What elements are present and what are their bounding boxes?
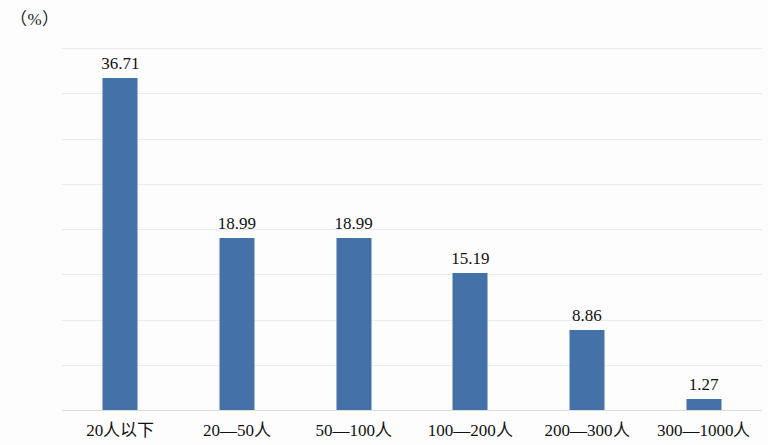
bar-value-label: 18.99 (218, 214, 256, 234)
bar-slot: 1.27 (645, 48, 762, 410)
plot-area: 40.0035.0030.0025.0020.0015.0010.005.000… (62, 48, 762, 410)
bar-slot: 8.86 (529, 48, 646, 410)
bar[interactable] (569, 330, 604, 410)
bar-value-label: 1.27 (689, 375, 719, 395)
bar-value-label: 36.71 (101, 54, 139, 74)
bar[interactable] (453, 273, 488, 410)
y-axis-unit-label: （%） (10, 5, 60, 30)
x-axis-category-label: 20—50人 (203, 416, 271, 441)
x-axis-category-label: 20人以下 (86, 416, 154, 441)
x-axis-category-label: 200—300人 (545, 416, 630, 441)
bar-slot: 36.71 (62, 48, 179, 410)
bar-value-label: 15.19 (451, 249, 489, 269)
x-axis-category-label: 100—200人 (428, 416, 513, 441)
bar-slot: 18.99 (179, 48, 296, 410)
bar-chart-figure: （%） 40.0035.0030.0025.0020.0015.0010.005… (0, 0, 768, 445)
bar-value-label: 8.86 (572, 306, 602, 326)
bar[interactable] (336, 238, 371, 410)
x-axis-category-labels: 20人以下20—50人50—100人100—200人200—300人300—10… (62, 414, 762, 445)
bar-value-label: 18.99 (335, 214, 373, 234)
bar-slot: 15.19 (412, 48, 529, 410)
bar[interactable] (103, 78, 138, 410)
bar[interactable] (686, 399, 721, 410)
gridline (62, 410, 762, 411)
x-axis-category-label: 300—1000人 (657, 416, 751, 441)
bar-slot: 18.99 (295, 48, 412, 410)
x-axis-category-label: 50—100人 (315, 416, 392, 441)
bar[interactable] (219, 238, 254, 410)
